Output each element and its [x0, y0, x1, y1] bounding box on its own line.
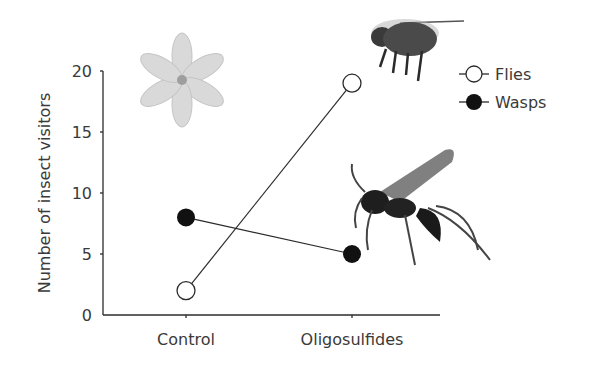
y-tick-5: 5 — [82, 245, 92, 264]
x-category-oligosulfides: Oligosulfides — [301, 330, 404, 349]
flies-point-oligosulfides — [343, 74, 361, 92]
legend: Flies Wasps — [459, 65, 546, 112]
wasps-point-control — [177, 208, 195, 226]
open-circle-icon — [466, 66, 482, 82]
legend-label-flies: Flies — [495, 65, 531, 84]
y-tick-0: 0 — [82, 306, 92, 325]
legend-item-wasps: Wasps — [459, 93, 546, 112]
flies-line — [186, 83, 352, 290]
wasps-line — [186, 217, 352, 254]
y-tick-20: 20 — [72, 62, 92, 81]
y-tick-10: 10 — [72, 184, 92, 203]
legend-item-flies: Flies — [459, 65, 531, 84]
chart: 20 15 10 5 0 Number of insect visitors C… — [0, 0, 589, 366]
flower-illustration — [136, 33, 227, 127]
filled-circle-icon — [466, 94, 482, 110]
y-tick-labels: 20 15 10 5 0 — [72, 62, 92, 325]
flies-point-control — [177, 282, 195, 300]
y-axis-title: Number of insect visitors — [35, 93, 54, 293]
y-tick-15: 15 — [72, 123, 92, 142]
wasp-illustration — [352, 149, 490, 265]
x-category-control: Control — [157, 330, 215, 349]
legend-label-wasps: Wasps — [495, 93, 546, 112]
fly-illustration — [371, 19, 464, 81]
wasps-point-oligosulfides — [343, 245, 361, 263]
